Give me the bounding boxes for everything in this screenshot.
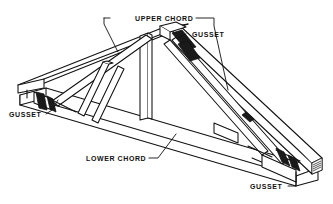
truss-diagram: UPPER CHORD GUSSET GUSSET LOWER CHORD GU…	[0, 0, 333, 204]
label-lower-chord: LOWER CHORD	[86, 155, 146, 162]
label-gusset-right: GUSSET	[250, 183, 283, 190]
label-gusset-peak: GUSSET	[192, 31, 225, 38]
label-upper-chord: UPPER CHORD	[135, 15, 193, 22]
label-gusset-left: GUSSET	[9, 111, 42, 118]
truss-geometry	[18, 22, 322, 186]
leader-upper-chord-left	[104, 18, 118, 52]
figure-canvas: UPPER CHORD GUSSET GUSSET LOWER CHORD GU…	[0, 0, 333, 204]
